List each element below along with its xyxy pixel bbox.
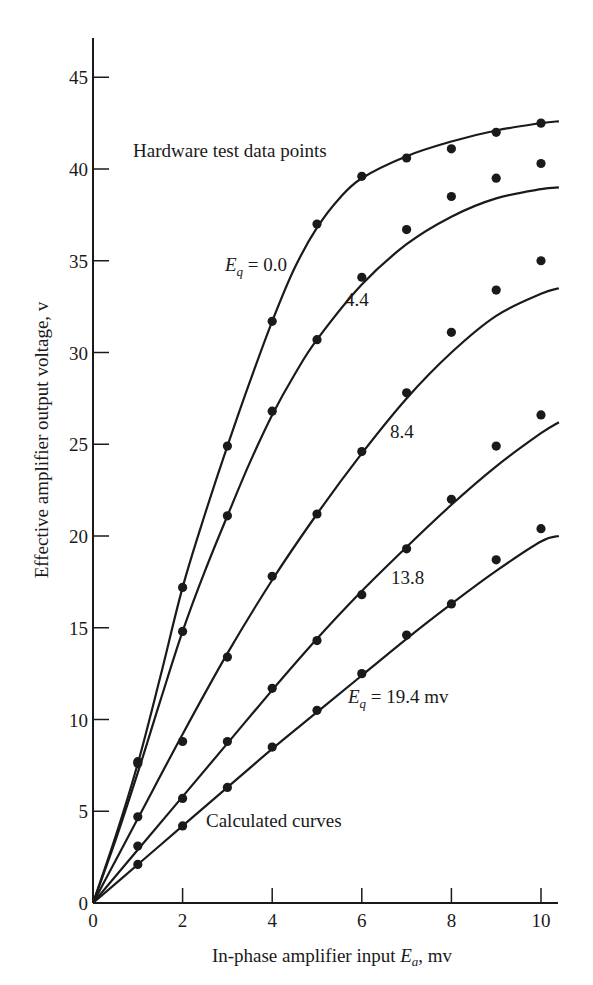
- data-point: [223, 737, 232, 746]
- data-point: [268, 407, 277, 416]
- y-tick-label: 10: [69, 710, 88, 731]
- data-point: [402, 225, 411, 234]
- x-tick-label: 10: [532, 910, 551, 931]
- data-point: [178, 821, 187, 830]
- x-tick-label: 2: [178, 910, 188, 931]
- data-point: [536, 524, 545, 533]
- data-point: [402, 388, 411, 397]
- data-point: [312, 706, 321, 715]
- data-point: [492, 174, 501, 183]
- data-point: [312, 636, 321, 645]
- series-labels: Eq = 0.04.48.413.8Eq = 19.4 mv: [224, 254, 449, 711]
- y-tick-label: 35: [69, 251, 88, 272]
- y-axis-title: Effective amplifier output voltage, v: [31, 301, 52, 578]
- data-point: [178, 627, 187, 636]
- data-point: [133, 812, 142, 821]
- series-label: 4.4: [345, 289, 369, 310]
- x-tick-label: 4: [267, 910, 277, 931]
- y-tick-label: 20: [69, 526, 88, 547]
- data-point: [133, 759, 142, 768]
- data-point: [312, 335, 321, 344]
- y-tick-label: 30: [69, 343, 88, 364]
- data-point: [312, 509, 321, 518]
- y-tick-label: 0: [79, 893, 89, 914]
- y-tick-label: 15: [69, 618, 88, 639]
- calculated-curve: [93, 187, 559, 903]
- annotation-hardware-points: Hardware test data points: [133, 140, 327, 161]
- data-point: [492, 555, 501, 564]
- hardware-data-points: [133, 119, 545, 870]
- data-point: [223, 511, 232, 520]
- data-point: [223, 783, 232, 792]
- data-point: [133, 842, 142, 851]
- data-point: [178, 583, 187, 592]
- annotation-calculated-curves: Calculated curves: [206, 810, 342, 831]
- chart: 0246810051015202530354045 Eq = 0.04.48.4…: [0, 0, 593, 985]
- data-point: [357, 273, 366, 282]
- data-point: [357, 590, 366, 599]
- x-tick-label: 6: [357, 910, 367, 931]
- data-point: [536, 159, 545, 168]
- data-point: [178, 794, 187, 803]
- data-point: [268, 572, 277, 581]
- data-point: [402, 153, 411, 162]
- data-point: [223, 653, 232, 662]
- calculated-curve: [93, 536, 559, 903]
- calculated-curve: [93, 121, 559, 903]
- data-point: [447, 328, 456, 337]
- data-point: [447, 599, 456, 608]
- data-point: [492, 286, 501, 295]
- calculated-curves: [93, 121, 559, 903]
- data-point: [268, 742, 277, 751]
- y-tick-label: 25: [69, 434, 88, 455]
- data-point: [312, 219, 321, 228]
- data-point: [447, 144, 456, 153]
- series-label: Eq = 19.4 mv: [347, 686, 449, 711]
- axes: 0246810051015202530354045: [69, 38, 558, 931]
- data-point: [133, 860, 142, 869]
- series-label: Eq = 0.0: [224, 254, 287, 279]
- data-point: [492, 128, 501, 137]
- data-point: [223, 441, 232, 450]
- data-point: [447, 495, 456, 504]
- data-point: [492, 441, 501, 450]
- x-tick-label: 0: [88, 910, 98, 931]
- y-tick-label: 45: [69, 67, 88, 88]
- data-point: [357, 669, 366, 678]
- data-point: [268, 317, 277, 326]
- data-point: [402, 630, 411, 639]
- data-point: [447, 192, 456, 201]
- series-label: 13.8: [391, 567, 424, 588]
- data-point: [268, 684, 277, 693]
- data-point: [402, 544, 411, 553]
- data-point: [357, 172, 366, 181]
- series-label: 8.4: [390, 421, 414, 442]
- y-tick-label: 40: [69, 159, 88, 180]
- y-tick-label: 5: [79, 801, 89, 822]
- data-point: [178, 737, 187, 746]
- x-tick-label: 8: [447, 910, 457, 931]
- data-point: [536, 119, 545, 128]
- x-axis-title: In-phase amplifier input Ea, mv: [212, 945, 453, 969]
- data-point: [536, 410, 545, 419]
- data-point: [357, 447, 366, 456]
- data-point: [536, 256, 545, 265]
